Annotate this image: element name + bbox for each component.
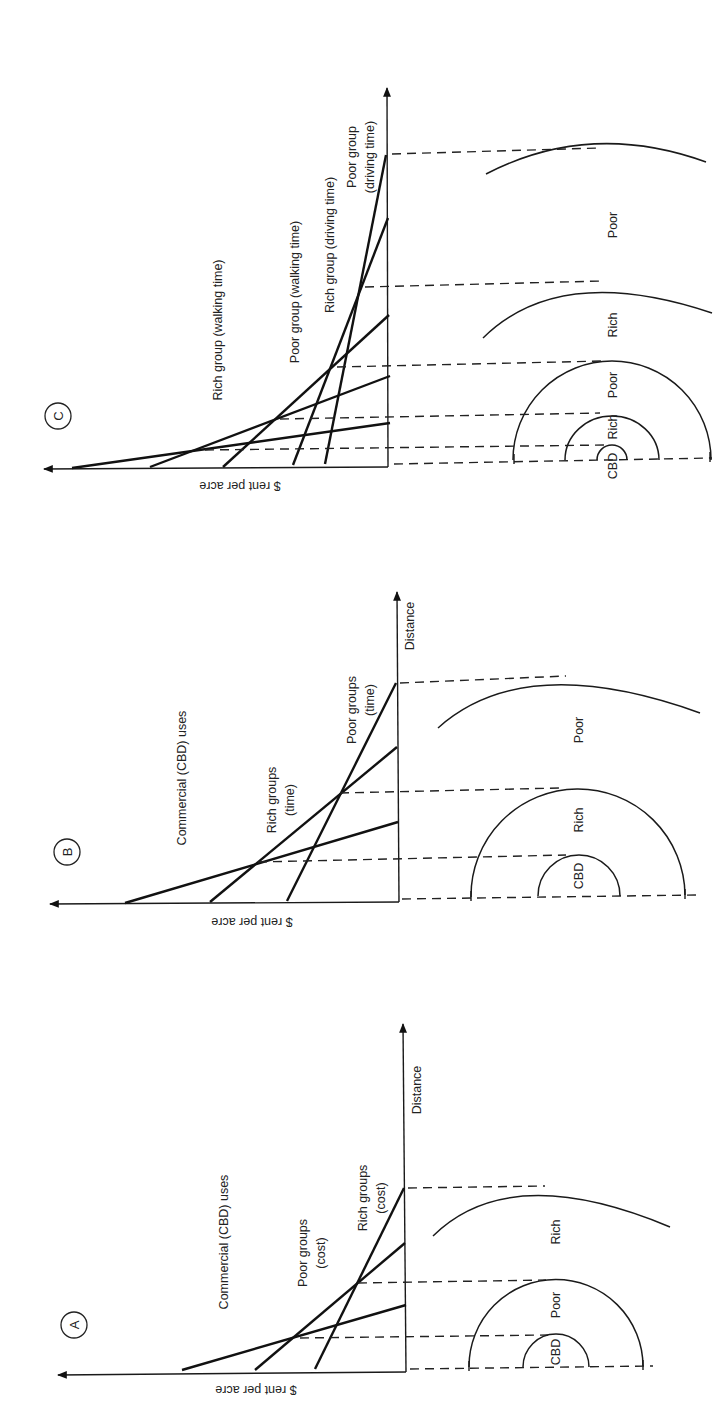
panel-b-label-rich-2: (time) [283, 784, 297, 816]
panel-a-label-rich-2: (cost) [374, 1182, 388, 1213]
panel-b-letter: B [60, 848, 75, 857]
panel-b-label-poor-1: Poor groups [345, 676, 359, 744]
panel-a-label-poor-1: Poor groups [296, 1219, 310, 1287]
panel-b-label-poor-2: (time) [363, 684, 377, 716]
panel-b: B $ rent per acre Distance CBD Rich Poor… [50, 592, 700, 929]
panel-b-zone-cbd: CBD [572, 863, 586, 889]
panel-c-label: C [45, 403, 71, 429]
panel-c-curve-rich-driving [293, 218, 388, 465]
panel-c-distance-axis [387, 88, 388, 467]
panel-a-distance-axis-label: Distance [410, 1066, 424, 1115]
panel-c-label-poor-driving-1: Poor group [345, 126, 359, 188]
panel-c-arc-poor-outer [486, 144, 706, 174]
panel-c-label-rich-walking: Rich group (walking time) [211, 259, 225, 400]
panel-c-zone-cbd: CBD [606, 453, 620, 479]
panel-c-label-poor-walking: Poor group (walking time) [288, 221, 302, 363]
panel-b-arc-poor [438, 685, 700, 728]
panel-a-zone-rich: Rich [549, 1219, 563, 1244]
panel-c-zone-poor-inner: Poor [606, 372, 620, 398]
panel-c-curve-poor-walking [150, 376, 390, 467]
panel-b-zone-poor: Poor [572, 717, 586, 743]
panel-a-zone-poor: Poor [549, 1292, 563, 1318]
panel-b-distance-axis-label: Distance [403, 602, 417, 651]
panel-a-distance-axis [403, 1024, 406, 1372]
panel-c-label-rich-driving: Rich group (driving time) [323, 177, 337, 313]
panel-a-label: A [61, 1312, 87, 1338]
panel-b-label-rich-1: Rich groups [265, 767, 279, 834]
panel-b-curve-poor [287, 683, 396, 901]
panel-b-rent-axis-label: $ rent per acre [211, 915, 292, 929]
panel-c-rent-axis [44, 467, 388, 469]
panel-c-arc-rich-outer [483, 293, 712, 338]
panel-b-zone-rich: Rich [572, 807, 586, 832]
panel-c-letter: C [51, 411, 66, 420]
panel-a-zone-cbd: CBD [549, 1339, 563, 1365]
panel-a-letter: A [67, 1320, 82, 1329]
panel-b-distance-axis [397, 592, 399, 902]
panel-c-rent-axis-label: $ rent per acre [199, 479, 280, 493]
panel-a-curve-poor [255, 1243, 405, 1370]
panel-c-label-poor-driving-2: (driving time) [363, 121, 377, 193]
bid-rent-figure: C $ rent per acre CBD Rich Poor Rich Poo… [0, 0, 723, 1424]
panel-b-curve-rich [210, 747, 397, 902]
panel-a-label-commercial: Commercial (CBD) uses [217, 1175, 231, 1310]
panel-b-label: B [54, 839, 80, 865]
panel-c-zone-rich-outer: Rich [606, 312, 620, 337]
panel-b-label-commercial: Commercial (CBD) uses [175, 711, 189, 846]
panel-a-rent-axis [58, 1372, 406, 1375]
panel-a-label-poor-2: (cost) [314, 1237, 328, 1268]
panel-a-rent-axis-label: $ rent per acre [215, 1383, 296, 1397]
panel-c-curve-rich-driving-a [223, 315, 389, 467]
panel-c: C $ rent per acre CBD Rich Poor Rich Poo… [44, 88, 712, 493]
panel-a-label-rich-1: Rich groups [356, 1165, 370, 1232]
panel-a: A $ rent per acre Distance CBD Poor Rich… [58, 1024, 670, 1397]
panel-c-zone-poor-outer: Poor [606, 212, 620, 238]
panel-b-rent-axis [50, 902, 399, 904]
panel-c-zone-rich-inner: Rich [606, 414, 620, 439]
